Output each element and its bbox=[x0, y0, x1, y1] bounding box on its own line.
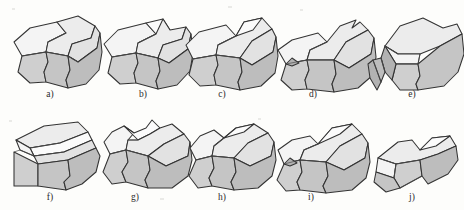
figure-illustration: a) b) c) bbox=[0, 0, 464, 210]
figure-label-e: e) bbox=[408, 89, 415, 100]
figure-view-g bbox=[103, 120, 192, 188]
figure-label-a: a) bbox=[46, 89, 53, 100]
figure-label-c: c) bbox=[218, 89, 225, 100]
figure-label-g: g) bbox=[131, 192, 139, 203]
figure-label-b: b) bbox=[139, 89, 147, 100]
figure-plate: a) b) c) bbox=[0, 0, 464, 210]
figure-label-f: f) bbox=[47, 192, 53, 203]
figure-label-d: d) bbox=[309, 89, 317, 100]
figure-label-h: h) bbox=[218, 192, 226, 203]
figure-label-i: i) bbox=[308, 192, 314, 203]
figure-label-j: j) bbox=[408, 192, 415, 203]
